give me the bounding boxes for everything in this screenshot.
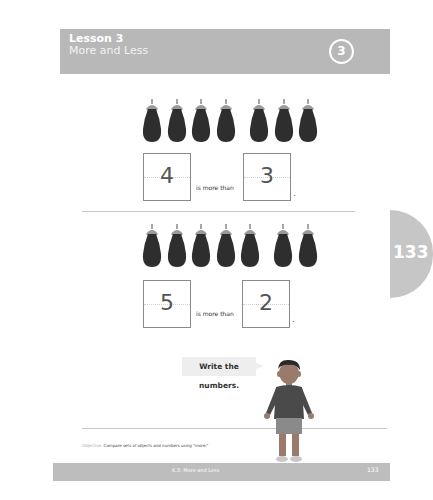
answer-value: 3	[244, 163, 290, 189]
objective-text: Compare sets of objects and numbers usin…	[104, 443, 209, 448]
compare-phrase: is more than	[196, 184, 234, 191]
eggplant-icon	[141, 222, 163, 268]
page-tab-number: 133	[393, 242, 429, 262]
compare-phrase: is more than	[196, 310, 234, 317]
answer-box-left-2[interactable]: 5	[143, 280, 191, 328]
answer-value: 2	[243, 290, 289, 316]
eggplant-icon	[190, 97, 212, 143]
answer-box-right-1[interactable]: 3	[243, 153, 291, 201]
eggplant-icon	[166, 222, 188, 268]
lesson-title: More and Less	[69, 45, 148, 57]
answer-value: 5	[144, 290, 190, 316]
eggplant-icon	[190, 222, 212, 268]
speech-bubble: Write the numbers.	[182, 357, 256, 376]
eggplant-icon	[297, 222, 319, 268]
bottom-divider	[82, 428, 387, 429]
period: .	[293, 188, 296, 198]
eggplant-group-a-2	[141, 222, 264, 268]
eggplant-icon	[272, 222, 294, 268]
eggplant-icon	[141, 97, 163, 143]
lesson-badge: 3	[329, 39, 354, 64]
eggplant-group-b-1	[248, 97, 322, 143]
eggplant-icon	[215, 222, 237, 268]
eggplant-icon	[248, 97, 270, 143]
answer-box-right-2[interactable]: 2	[242, 280, 290, 328]
boy-character-icon	[258, 357, 320, 465]
eggplant-group-a-1	[141, 97, 239, 143]
section-divider	[82, 211, 355, 212]
eggplant-group-b-2	[272, 222, 321, 268]
objective: Objective: Compare sets of objects and n…	[82, 443, 208, 448]
answer-value: 4	[144, 163, 190, 189]
objective-label: Objective:	[82, 443, 102, 448]
eggplant-icon	[215, 97, 237, 143]
answer-box-left-1[interactable]: 4	[143, 153, 191, 201]
footer-page-number: 133	[367, 466, 378, 473]
period: .	[292, 314, 295, 324]
footer-band	[53, 463, 390, 481]
footer-title: K.3: More and Less	[172, 467, 219, 473]
eggplant-icon	[297, 97, 319, 143]
eggplant-icon	[273, 97, 295, 143]
eggplant-icon	[166, 97, 188, 143]
eggplant-icon	[239, 222, 261, 268]
